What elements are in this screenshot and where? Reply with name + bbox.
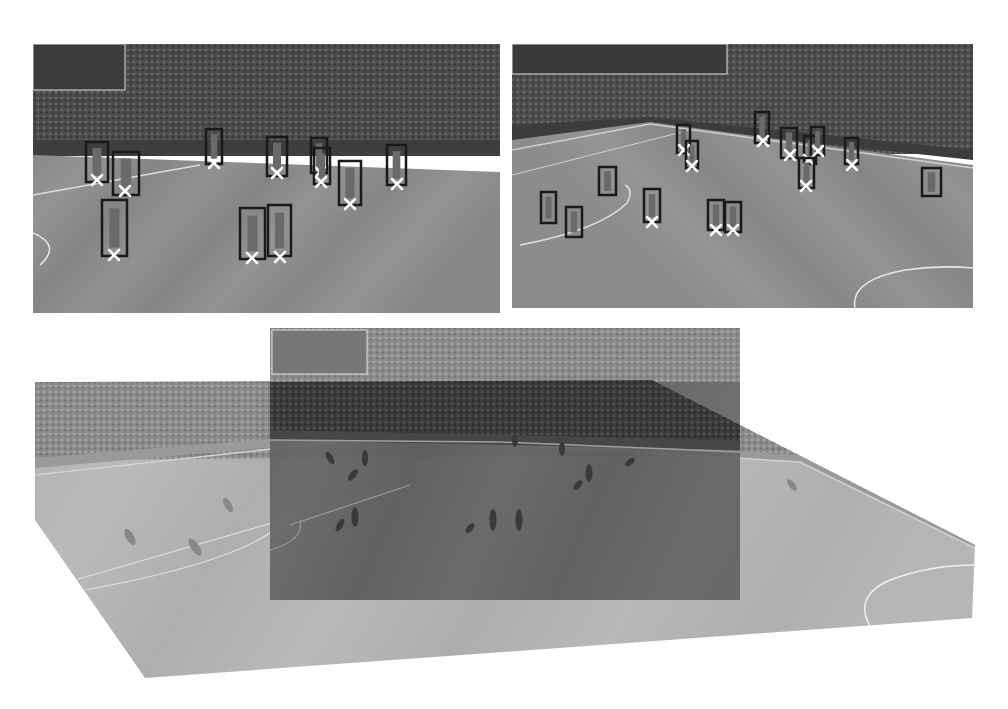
frame-2-image	[512, 44, 973, 308]
advertising-board	[512, 44, 727, 74]
player-figure	[248, 216, 258, 252]
player-figure	[849, 142, 854, 160]
player-figure	[110, 208, 120, 247]
player-figure	[93, 148, 102, 176]
player-figure	[571, 212, 577, 233]
player-figure	[604, 171, 611, 191]
reference-frame-overlay	[270, 328, 740, 600]
player-figure	[713, 205, 719, 226]
player-figure	[346, 168, 355, 199]
player-figure	[690, 145, 695, 164]
player-figure	[928, 172, 936, 192]
player-figure	[546, 197, 552, 219]
frame-1-image	[33, 44, 500, 313]
player-figure	[211, 134, 217, 159]
frame-1-panel	[33, 44, 500, 313]
player-figure	[730, 207, 736, 228]
frame-2-panel	[512, 44, 973, 308]
warped-panorama-image	[0, 320, 1008, 700]
player-figure	[121, 158, 131, 188]
player-figure	[649, 194, 655, 217]
player-figure	[275, 213, 284, 249]
player-figure	[319, 153, 325, 178]
player-figure	[804, 163, 810, 184]
player-figure	[393, 151, 401, 179]
player-figure	[273, 143, 281, 170]
warped-panorama-panel	[0, 320, 1008, 700]
scoreboard-box	[33, 44, 125, 90]
player-figure	[759, 117, 765, 139]
